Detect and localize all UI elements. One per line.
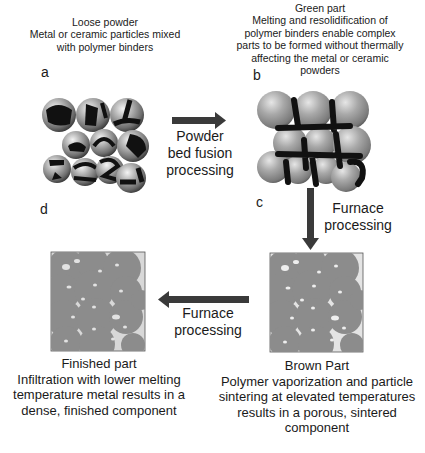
- arrow-a-b-label: Powder bed fusion processing: [160, 128, 240, 178]
- arrow-b-c-label: Furnace processing: [318, 200, 398, 234]
- arrow-down-icon: [302, 188, 319, 250]
- panel-a-title: Loose powder: [10, 16, 200, 28]
- panel-c-caption: Brown Part Polymer vaporization and part…: [212, 358, 422, 436]
- panel-b-title: Green part: [222, 2, 418, 14]
- panel-d-title: Finished part: [4, 356, 194, 372]
- panel-d-letter: d: [40, 201, 48, 217]
- finished-part-box: [44, 246, 151, 362]
- brown-part-box: [262, 246, 370, 362]
- panel-b-letter: b: [253, 67, 261, 83]
- panel-a-letter: a: [41, 64, 49, 80]
- green-part-particles: [257, 91, 371, 192]
- loose-powder-particles: [42, 98, 149, 193]
- panel-d-caption: Finished part Infiltration with lower me…: [4, 356, 194, 418]
- panel-c-title: Brown Part: [212, 358, 422, 374]
- arrow-c-d-label: Furnace processing: [163, 305, 253, 339]
- panel-b-caption: Green part Melting and resolidification …: [222, 2, 418, 76]
- panel-c-letter: c: [256, 194, 263, 210]
- panel-a-caption: Loose powder Metal or ceramic particles …: [10, 16, 200, 53]
- arrow-right-icon: [172, 112, 226, 129]
